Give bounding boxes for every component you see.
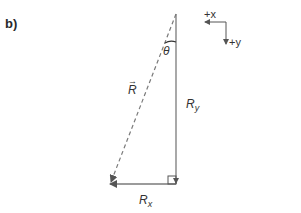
- plus-x-label: +x: [204, 8, 216, 20]
- resultant-vector-dashed: [111, 14, 176, 182]
- ry-label: Ry: [186, 97, 200, 113]
- vector-diagram: θ R → Ry Rx +x +y: [0, 0, 301, 213]
- angle-arc: [165, 41, 176, 43]
- axes-indicator: +x +y: [204, 8, 241, 48]
- vector-arrow-icon: →: [128, 76, 137, 86]
- rx-label: Rx: [139, 193, 153, 209]
- plus-y-label: +y: [229, 36, 241, 48]
- theta-label: θ: [163, 44, 170, 58]
